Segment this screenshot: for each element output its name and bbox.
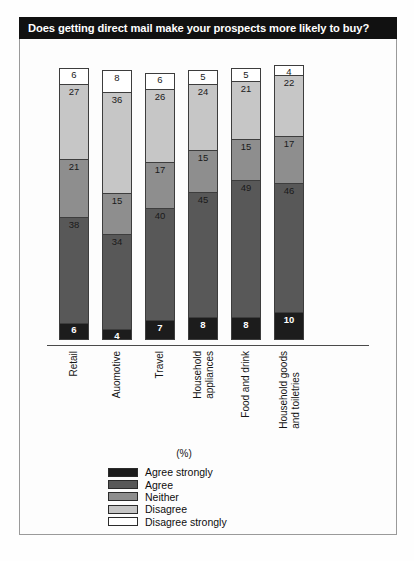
bar-segment[interactable]: 49 (231, 180, 261, 318)
segment-value-label: 27 (60, 86, 88, 97)
segment-value-label: 15 (189, 152, 217, 163)
segment-value-label: 24 (189, 86, 217, 97)
legend-label: Agree strongly (145, 466, 213, 478)
bar-segment[interactable]: 4 (102, 329, 132, 340)
bar-segment[interactable]: 15 (188, 150, 218, 192)
segment-value-label: 6 (60, 324, 88, 335)
bar-column[interactable]: 52115498 (231, 68, 261, 344)
segment-value-label: 21 (232, 83, 260, 94)
x-axis-label: Auomotive (102, 351, 132, 447)
bar-segment[interactable]: 21 (59, 159, 89, 218)
legend-item[interactable]: Disagree (108, 503, 227, 515)
x-axis-label: Household goodsand toiletries (274, 351, 304, 447)
percent-label: (%) (176, 448, 192, 459)
legend-label: Agree (145, 479, 173, 491)
segment-value-label: 21 (60, 161, 88, 172)
legend-swatch (108, 517, 138, 526)
segment-value-label: 22 (275, 77, 303, 88)
segment-value-label: 7 (146, 322, 174, 333)
segment-value-label: 46 (275, 185, 303, 196)
x-axis-line (47, 345, 369, 346)
segment-value-label: 8 (232, 319, 260, 330)
segment-value-label: 15 (232, 141, 260, 152)
legend-item[interactable]: Agree (108, 478, 227, 490)
chart-legend: Agree stronglyAgreeNeitherDisagreeDisagr… (108, 466, 227, 528)
bar-segment[interactable]: 10 (274, 312, 304, 340)
bar-segment[interactable]: 17 (145, 162, 175, 210)
bar-segment[interactable]: 45 (188, 192, 218, 319)
bar-column[interactable]: 422174610 (274, 65, 304, 344)
segment-value-label: 8 (103, 72, 131, 83)
y-axis-unit-label: (%) (19, 448, 397, 459)
legend-item[interactable]: Agree strongly (108, 466, 227, 478)
segment-value-label: 4 (103, 330, 131, 340)
bar-segment[interactable]: 6 (59, 323, 89, 340)
segment-value-label: 15 (103, 195, 131, 206)
segment-value-label: 26 (146, 91, 174, 102)
bar-segment[interactable]: 34 (102, 234, 132, 330)
segment-value-label: 49 (232, 182, 260, 193)
legend-swatch (108, 505, 138, 514)
segment-value-label: 6 (60, 69, 88, 80)
segment-value-label: 8 (189, 319, 217, 330)
bar-segment[interactable]: 8 (188, 317, 218, 340)
plot-area: 6272138683615344626174075241545852115498… (19, 39, 397, 349)
bar-segment[interactable]: 15 (102, 193, 132, 235)
bar-segment[interactable]: 8 (231, 317, 261, 340)
x-axis-label: Retail (59, 351, 89, 447)
segment-value-label: 10 (275, 314, 303, 325)
x-axis-label: Householdappliances (188, 351, 218, 447)
bar-segment[interactable]: 6 (59, 68, 89, 85)
x-axis-label: Travel (145, 351, 175, 447)
legend-label: Disagree strongly (145, 516, 227, 528)
legend-swatch (108, 492, 138, 501)
bar-column[interactable]: 52415458 (188, 70, 218, 344)
segment-value-label: 36 (103, 94, 131, 105)
segment-value-label: 40 (146, 210, 174, 221)
bar-segment[interactable]: 21 (231, 81, 261, 140)
legend-item[interactable]: Disagree strongly (108, 516, 227, 528)
segment-value-label: 45 (189, 194, 217, 205)
bar-segment[interactable]: 5 (231, 68, 261, 82)
legend-swatch (108, 468, 138, 477)
page-title: Does getting direct mail make your prosp… (19, 22, 369, 34)
bar-segment[interactable]: 38 (59, 217, 89, 324)
segment-value-label: 38 (60, 219, 88, 230)
bar-segment[interactable]: 26 (145, 89, 175, 162)
bar-segment[interactable]: 6 (145, 73, 175, 90)
bar-segment[interactable]: 22 (274, 75, 304, 137)
bar-segment[interactable]: 27 (59, 84, 89, 160)
segment-value-label: 17 (146, 164, 174, 175)
bar-segment[interactable]: 5 (188, 70, 218, 84)
bar-segment[interactable]: 46 (274, 183, 304, 313)
bar-segment[interactable]: 8 (102, 70, 132, 93)
bar-segment[interactable]: 15 (231, 139, 261, 181)
bar-column[interactable]: 62721386 (59, 68, 89, 344)
segment-value-label: 5 (189, 71, 217, 82)
segment-value-label: 34 (103, 236, 131, 247)
bar-column[interactable]: 62617407 (145, 73, 175, 344)
bar-column[interactable]: 83615344 (102, 70, 132, 344)
bar-segment[interactable]: 36 (102, 92, 132, 194)
segment-value-label: 5 (232, 69, 260, 80)
bar-segment[interactable]: 24 (188, 84, 218, 152)
bar-segment[interactable]: 7 (145, 320, 175, 340)
x-axis-label: Food and drink (231, 351, 261, 447)
legend-swatch (108, 480, 138, 489)
segment-value-label: 6 (146, 74, 174, 85)
segment-value-label: 17 (275, 138, 303, 149)
chart-figure: Does getting direct mail make your prosp… (0, 0, 414, 561)
legend-label: Neither (145, 491, 179, 503)
legend-item[interactable]: Neither (108, 491, 227, 503)
bar-segment[interactable]: 40 (145, 208, 175, 321)
chart-title-bar: Does getting direct mail make your prosp… (19, 17, 397, 39)
legend-label: Disagree (145, 503, 187, 515)
bar-segment[interactable]: 17 (274, 136, 304, 184)
